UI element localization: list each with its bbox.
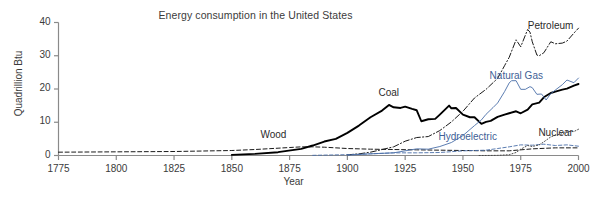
series-label-petroleum: Petroleum [528,20,574,31]
x-tick-label-1875: 1875 [265,163,315,174]
x-tick-label-1900: 1900 [322,163,372,174]
y-tick-label-20: 20 [13,82,51,93]
series-line-coal [232,84,579,155]
x-tick-label-2000: 2000 [554,163,604,174]
y-tick-label-0: 0 [13,149,51,160]
axes [54,23,579,161]
x-tick-label-1925: 1925 [380,163,430,174]
energy-consumption-chart: Energy consumption in the United States … [0,0,607,197]
y-tick-label-30: 30 [13,49,51,60]
x-tick-label-1950: 1950 [438,163,488,174]
x-tick-label-1850: 1850 [207,163,257,174]
x-tick-label-1825: 1825 [149,163,199,174]
data-series [59,28,579,155]
series-label-hydroelectric: Hydroelectric [439,131,497,142]
y-tick-label-10: 10 [13,115,51,126]
series-label-coal: Coal [378,87,399,98]
series-label-natural-gas: Natural Gas [490,70,543,81]
y-tick-label-40: 40 [13,16,51,27]
x-tick-label-1975: 1975 [496,163,546,174]
series-label-wood: Wood [260,129,286,140]
x-tick-label-1800: 1800 [91,163,141,174]
series-line-hydroelectric [313,144,579,155]
x-tick-label-1775: 1775 [34,163,84,174]
series-label-nuclear: Nuclear [538,127,572,138]
